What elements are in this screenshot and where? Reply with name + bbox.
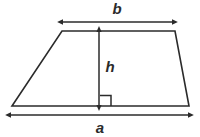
label-b: b: [112, 0, 121, 17]
trapezoid-figure: b h a: [0, 0, 200, 137]
right-angle-marker: [100, 96, 111, 107]
label-h: h: [105, 58, 114, 75]
label-a: a: [96, 119, 104, 136]
figure-canvas: b h a: [0, 0, 200, 137]
